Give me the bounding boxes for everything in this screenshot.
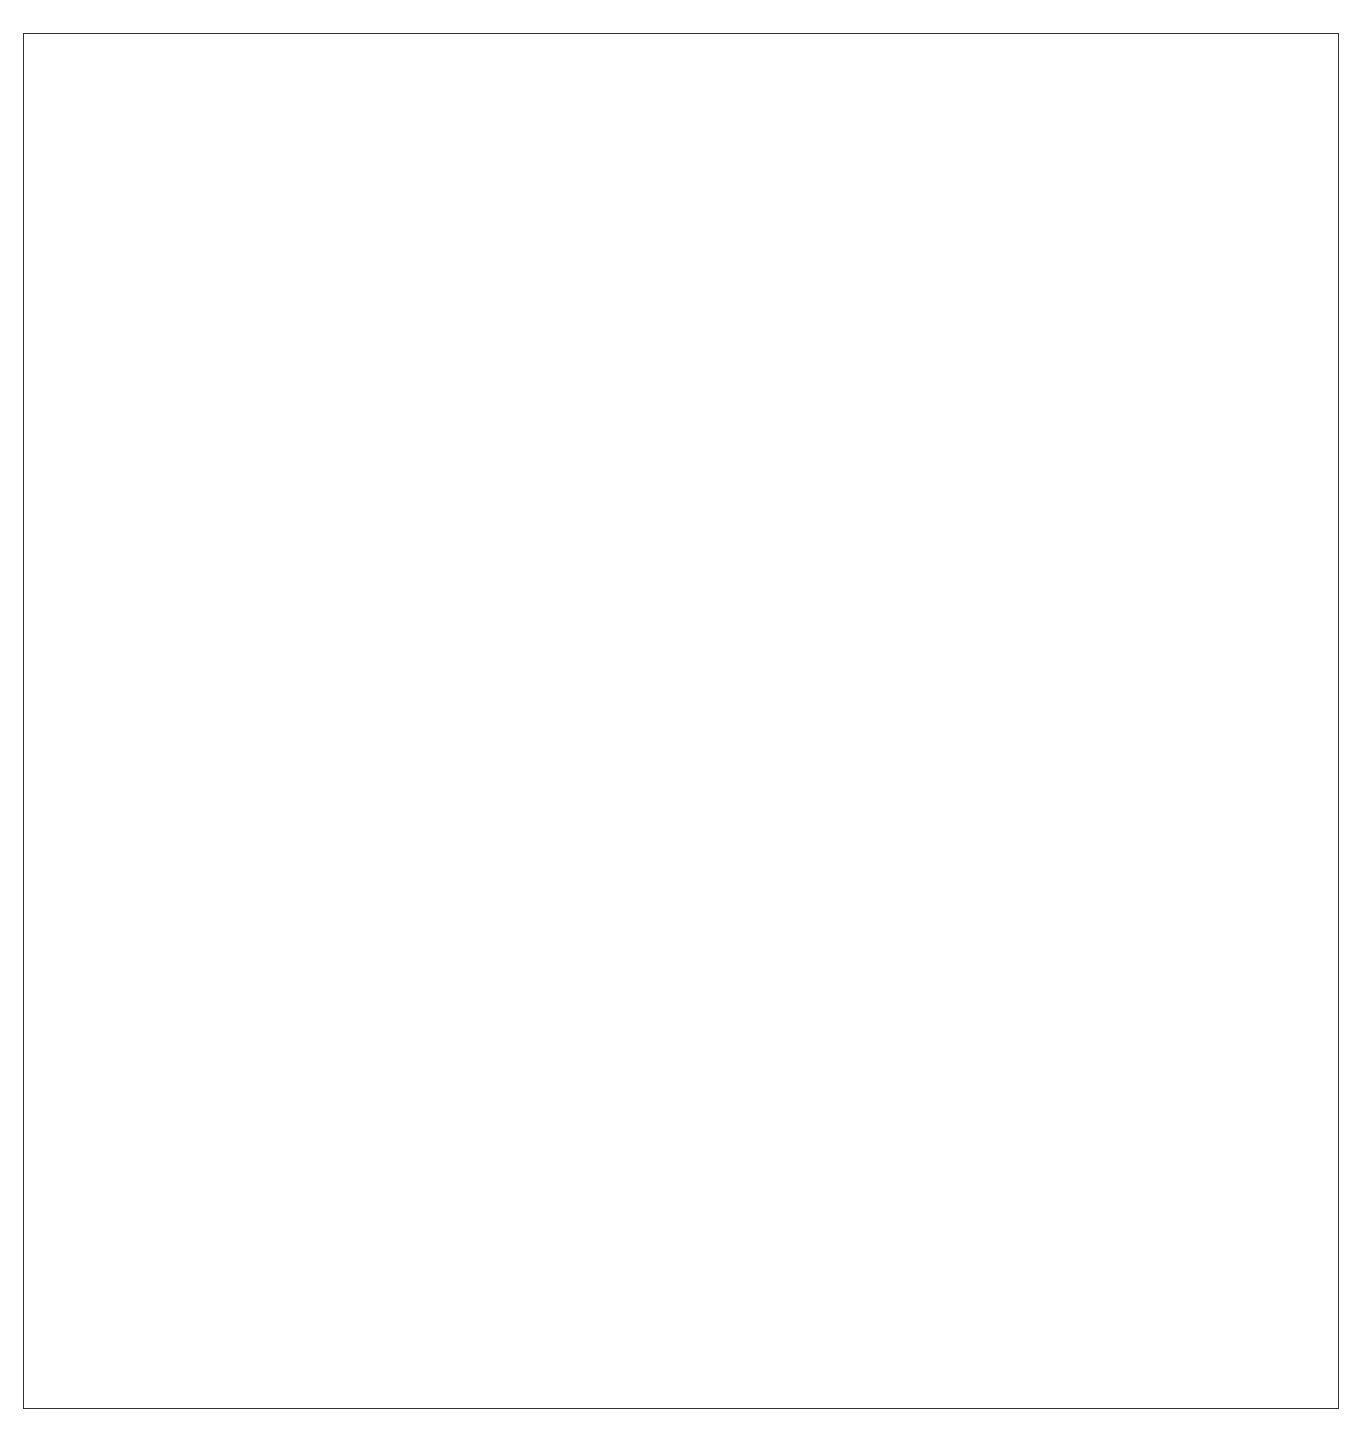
figure-canvas xyxy=(0,0,1363,1430)
